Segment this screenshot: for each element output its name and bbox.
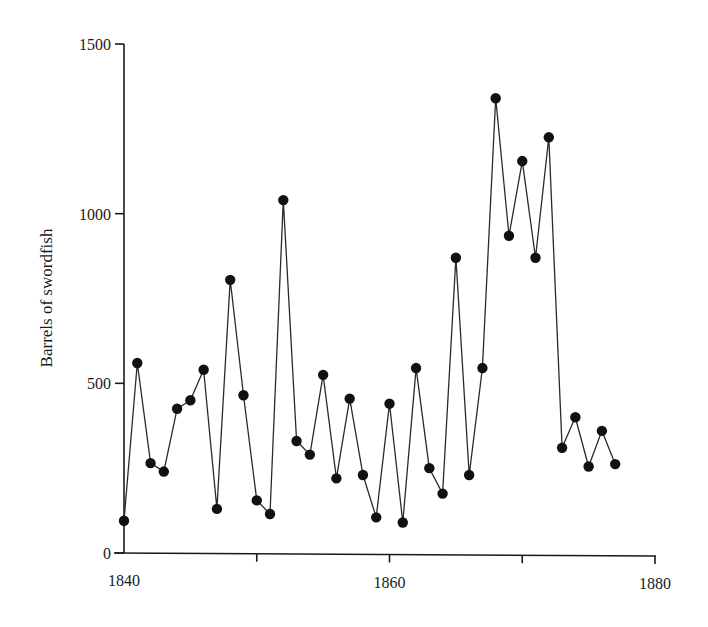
data-point-marker xyxy=(597,426,607,436)
data-point-marker xyxy=(159,466,169,476)
data-point-marker xyxy=(544,132,554,142)
data-point-marker xyxy=(477,363,487,373)
data-point-marker xyxy=(212,504,222,514)
data-point-marker xyxy=(358,470,368,480)
data-point-marker xyxy=(384,398,394,408)
data-point-marker xyxy=(252,495,262,505)
y-axis-title: Barrels of swordfish xyxy=(37,228,56,367)
data-point-marker xyxy=(132,358,142,368)
data-point-marker xyxy=(185,395,195,405)
x-tick-label: 1880 xyxy=(639,575,671,592)
x-axis: 184018601880 xyxy=(108,553,671,592)
data-point-marker xyxy=(491,93,501,103)
data-point-marker xyxy=(610,459,620,469)
data-point-marker xyxy=(278,195,288,205)
data-point-marker xyxy=(265,509,275,519)
data-point-marker xyxy=(411,363,421,373)
data-point-marker xyxy=(198,365,208,375)
x-axis-line xyxy=(114,553,656,556)
data-point-marker xyxy=(557,443,567,453)
data-point-marker xyxy=(305,449,315,459)
data-point-marker xyxy=(331,473,341,483)
data-point-marker xyxy=(344,393,354,403)
data-point-marker xyxy=(504,231,514,241)
x-tick-label: 1840 xyxy=(108,572,140,589)
y-tick-label: 0 xyxy=(103,545,111,562)
data-point-marker xyxy=(145,458,155,468)
y-tick-label: 500 xyxy=(87,375,111,392)
data-point-marker xyxy=(225,275,235,285)
data-series xyxy=(119,93,621,528)
data-point-marker xyxy=(291,436,301,446)
data-point-marker xyxy=(451,253,461,263)
y-axis: 050010001500 xyxy=(79,36,124,562)
data-point-marker xyxy=(424,463,434,473)
line-chart: 050010001500 184018601880 Barrels of swo… xyxy=(0,0,708,627)
data-point-marker xyxy=(583,461,593,471)
data-point-marker xyxy=(371,512,381,522)
data-point-marker xyxy=(437,488,447,498)
data-point-marker xyxy=(517,156,527,166)
data-point-marker xyxy=(398,517,408,527)
data-point-marker xyxy=(530,253,540,263)
data-point-marker xyxy=(318,370,328,380)
data-point-marker xyxy=(464,470,474,480)
data-point-marker xyxy=(172,404,182,414)
y-tick-label: 1500 xyxy=(79,36,111,53)
data-point-marker xyxy=(570,412,580,422)
series-line xyxy=(124,98,615,522)
data-point-marker xyxy=(119,516,129,526)
data-point-marker xyxy=(238,390,248,400)
y-tick-label: 1000 xyxy=(79,206,111,223)
x-tick-label: 1860 xyxy=(374,574,406,591)
